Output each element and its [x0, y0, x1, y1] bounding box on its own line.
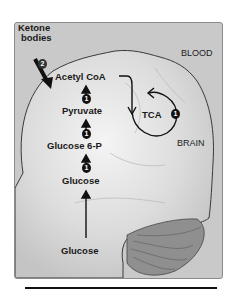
bodies-label: bodies	[21, 32, 52, 43]
blood-label: BLOOD	[181, 48, 213, 58]
step-badge-pyruvate: 1	[82, 94, 91, 104]
ketone-step-badge: 2	[38, 59, 47, 69]
glucose-brain-label: Glucose	[62, 175, 100, 186]
pyruvate-label: Pyruvate	[62, 105, 102, 116]
acetyl-coa-label: Acetyl CoA	[55, 71, 106, 82]
brain-label: BRAIN	[177, 138, 205, 148]
glucose6p-label: Glucose 6-P	[47, 140, 102, 151]
tca-label: TCA	[142, 109, 162, 120]
diagram-panel: Ketone bodies 2 BLOOD Acetyl CoA 1 Pyruv…	[14, 22, 223, 279]
tca-step-badge: 1	[171, 109, 180, 119]
step-badge-g6p: 1	[82, 129, 91, 139]
step-badge-glucose: 1	[82, 163, 91, 173]
glucose-blood-label: Glucose	[61, 245, 99, 256]
